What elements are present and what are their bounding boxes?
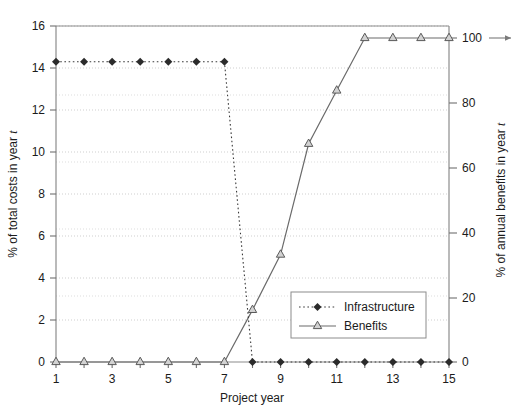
- ytick-left-6: 6: [38, 229, 45, 243]
- ytick-left-0: 0: [38, 355, 45, 369]
- ytick-left-2: 2: [38, 313, 45, 327]
- xtick-3: 3: [109, 372, 116, 386]
- legend-label-benefits: Benefits: [344, 319, 387, 333]
- xtick-11: 11: [330, 372, 343, 386]
- xtick-1: 1: [53, 372, 60, 386]
- chart-figure: 16 14 12 10 8 6 4 2 0 100 80 60 40 20 0: [0, 0, 518, 413]
- svg-text:% of total costs in year t: % of total costs in year t: [6, 130, 20, 258]
- ytick-right-40: 40: [462, 226, 476, 240]
- ytick-right-80: 80: [462, 96, 476, 110]
- y-axis-left-title: % of total costs in year t: [6, 130, 20, 258]
- ytick-right-0: 0: [462, 355, 469, 369]
- ytick-left-16: 16: [32, 19, 46, 33]
- xtick-15: 15: [442, 372, 456, 386]
- y-axis-right-title: % of annual benefits in year t: [494, 122, 508, 277]
- chart-legend: Infrastructure Benefits: [291, 292, 426, 338]
- ytick-left-10: 10: [32, 145, 46, 159]
- xtick-5: 5: [165, 372, 172, 386]
- xtick-7: 7: [221, 372, 228, 386]
- chart-svg: 16 14 12 10 8 6 4 2 0 100 80 60 40 20 0: [0, 0, 518, 413]
- xtick-9: 9: [277, 372, 284, 386]
- y-axis-right-title-main: % of annual benefits in year: [494, 126, 508, 277]
- ytick-right-20: 20: [462, 291, 476, 305]
- xtick-13: 13: [386, 372, 400, 386]
- legend-label-infrastructure: Infrastructure: [344, 300, 415, 314]
- ytick-left-8: 8: [38, 187, 45, 201]
- ytick-left-14: 14: [32, 61, 46, 75]
- ytick-left-4: 4: [38, 271, 45, 285]
- y-axis-left-title-main: % of total costs in year: [6, 134, 20, 258]
- ytick-right-60: 60: [462, 161, 476, 175]
- ytick-right-100: 100: [462, 31, 482, 45]
- ytick-left-12: 12: [32, 103, 46, 117]
- svg-text:% of annual benefits in year t: % of annual benefits in year t: [494, 122, 508, 277]
- x-axis-title: Project year: [220, 391, 284, 405]
